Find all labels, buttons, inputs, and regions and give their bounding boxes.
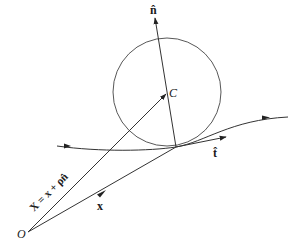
center-label: C <box>169 86 178 100</box>
origin-label: O <box>17 227 26 241</box>
tangent-vector <box>176 137 226 147</box>
tangent-label: t̂ <box>213 146 217 160</box>
center-vector-label: X = x + ρn̂ <box>27 170 70 213</box>
normal-label: n̂ <box>150 3 157 17</box>
position-label: x <box>97 199 103 213</box>
osculating-circle-diagram: n̂ t̂ C O x X = x + ρn̂ <box>0 0 307 252</box>
diagram-svg: n̂ t̂ C O x X = x + ρn̂ <box>0 0 307 252</box>
curve <box>57 117 288 150</box>
normal-vector <box>155 18 176 147</box>
